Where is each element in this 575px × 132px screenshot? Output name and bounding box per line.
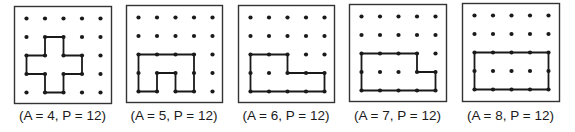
grid-dot: [472, 69, 476, 73]
caption-5: (A = 8, P = 12): [446, 108, 575, 123]
grid-dot: [491, 87, 495, 91]
grid-dot: [509, 50, 513, 54]
grid-dot: [472, 32, 476, 36]
grid-dot: [546, 87, 550, 91]
grid-dot: [509, 13, 513, 17]
grid-dot: [546, 69, 550, 73]
grid-dot: [491, 32, 495, 36]
grid-dot: [509, 69, 513, 73]
grid-dot: [546, 13, 550, 17]
grid-dot: [472, 87, 476, 91]
grid-dot: [491, 50, 495, 54]
geoboard-panel-5: (A = 8, P = 12): [0, 0, 575, 132]
grid-dot: [528, 13, 532, 17]
grid-dot: [472, 50, 476, 54]
grid-dot: [528, 87, 532, 91]
geoboard-5: [0, 0, 575, 108]
grid-dot: [546, 32, 550, 36]
grid-dot: [491, 13, 495, 17]
grid-dot: [472, 13, 476, 17]
grid-dot: [528, 69, 532, 73]
grid-dot: [509, 87, 513, 91]
grid-dot: [528, 50, 532, 54]
grid-dot: [509, 32, 513, 36]
grid-dot: [528, 32, 532, 36]
grid-dot: [491, 69, 495, 73]
grid-dot: [546, 50, 550, 54]
